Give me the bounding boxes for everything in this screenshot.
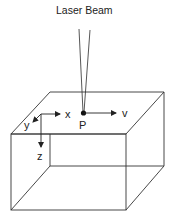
laser-diagram: Laser Beam x y z P v [0, 0, 175, 220]
laser-beam [79, 29, 90, 112]
y-axis-label: y [24, 119, 30, 131]
velocity-label: v [122, 107, 128, 119]
title-label: Laser Beam [56, 4, 113, 16]
coordinate-axes [33, 114, 60, 147]
y-axis-arrow [33, 114, 41, 122]
workpiece-box [11, 92, 164, 210]
z-axis-label: z [37, 150, 43, 162]
point-p-label: P [79, 119, 86, 131]
x-axis-label: x [65, 108, 71, 120]
